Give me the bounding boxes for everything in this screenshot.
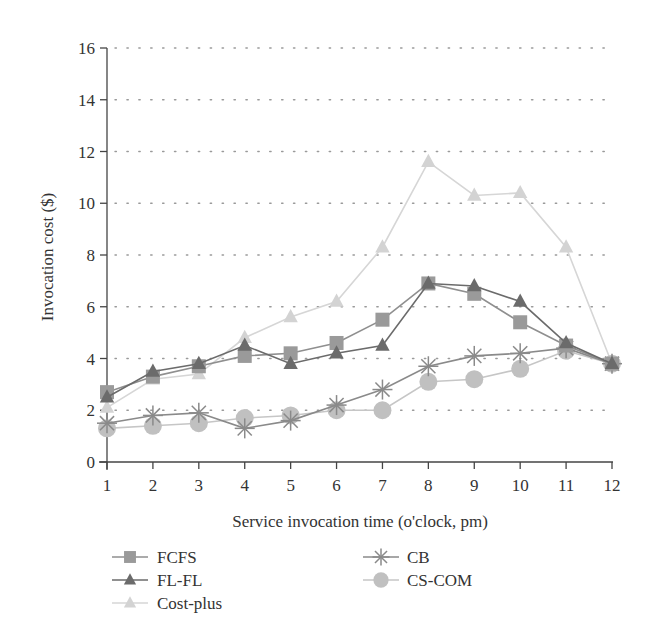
x-tick-label: 9 [470, 476, 479, 495]
triangle-marker-icon [112, 596, 148, 607]
triangle-marker-icon [467, 278, 481, 291]
square-marker-icon [124, 551, 136, 563]
legend-item-fl-fl: FL-FL [112, 571, 202, 590]
legend-label: FCFS [157, 548, 197, 567]
series-line [107, 283, 612, 397]
x-tick-label: 8 [424, 476, 433, 495]
star-marker-icon [372, 380, 392, 400]
y-tick-label: 12 [78, 143, 95, 162]
chart-canvas: 0246810121416 123456789101112 Invocation… [0, 0, 662, 644]
legend-label: CB [407, 548, 430, 567]
series-cost-plus [100, 154, 619, 413]
y-tick-label: 8 [87, 246, 96, 265]
gridlines [115, 48, 606, 410]
triangle-marker-icon [375, 239, 389, 252]
y-tick-label: 2 [87, 401, 96, 420]
series-cb [97, 338, 622, 438]
x-tick-label: 7 [378, 476, 387, 495]
series-fl-fl [100, 275, 619, 402]
triangle-marker-icon [467, 187, 481, 200]
star-marker-icon [373, 549, 390, 566]
legend-label: FL-FL [157, 571, 202, 590]
legend: FCFS FL-FL Cost-plus CB CS-COM [112, 548, 472, 613]
star-marker-icon [510, 343, 530, 363]
series-fcfs [100, 276, 619, 399]
triangle-marker-icon [513, 185, 527, 198]
circle-marker-icon [373, 401, 391, 419]
x-tick-label: 1 [103, 476, 112, 495]
triangle-marker-icon [124, 573, 136, 584]
x-tick-label: 2 [149, 476, 158, 495]
star-marker-icon [281, 411, 301, 431]
x-axis-ticks: 123456789101112 [103, 462, 621, 495]
series-line [107, 162, 612, 408]
x-tick-label: 4 [240, 476, 249, 495]
star-marker-icon [327, 395, 347, 415]
legend-label: Cost-plus [157, 594, 222, 613]
triangle-marker-icon [112, 573, 148, 584]
y-axis-ticks: 0246810121416 [78, 39, 107, 472]
axes [99, 48, 613, 470]
star-marker-icon [418, 356, 438, 376]
circle-marker-icon [363, 572, 399, 587]
star-marker-icon [464, 346, 484, 366]
y-tick-label: 6 [87, 298, 96, 317]
y-axis-title: Invocation cost ($) [38, 193, 57, 321]
star-marker-icon [143, 405, 163, 425]
x-tick-label: 10 [512, 476, 529, 495]
x-tick-label: 3 [195, 476, 204, 495]
triangle-marker-icon [421, 154, 435, 167]
x-axis-title: Service invocation time (o'clock, pm) [232, 512, 488, 531]
square-marker-icon [238, 349, 252, 363]
star-marker-icon [235, 418, 255, 438]
series-cs-com [98, 342, 621, 438]
legend-label: CS-COM [407, 571, 472, 590]
legend-item-cs-com: CS-COM [363, 571, 472, 590]
line-chart: 0246810121416 123456789101112 Invocation… [0, 0, 662, 644]
y-tick-label: 10 [78, 194, 95, 213]
y-tick-label: 14 [78, 91, 96, 110]
star-marker-icon [189, 403, 209, 423]
series-line [107, 348, 612, 428]
circle-marker-icon [465, 370, 483, 388]
x-tick-label: 6 [332, 476, 341, 495]
y-tick-label: 16 [78, 39, 95, 58]
legend-item-cb: CB [363, 548, 430, 567]
triangle-marker-icon [124, 596, 136, 607]
y-tick-label: 0 [87, 453, 96, 472]
star-marker-icon [97, 413, 117, 433]
star-marker-icon [363, 549, 399, 566]
square-marker-icon [112, 551, 148, 563]
x-tick-label: 5 [286, 476, 295, 495]
legend-item-fcfs: FCFS [112, 548, 197, 567]
series-line [107, 351, 612, 429]
square-marker-icon [375, 313, 389, 327]
data-series [97, 154, 622, 439]
square-marker-icon [513, 315, 527, 329]
y-tick-label: 4 [87, 350, 96, 369]
legend-item-cost-plus: Cost-plus [112, 594, 222, 613]
x-tick-label: 12 [604, 476, 621, 495]
circle-marker-icon [373, 572, 388, 587]
x-tick-label: 11 [558, 476, 574, 495]
